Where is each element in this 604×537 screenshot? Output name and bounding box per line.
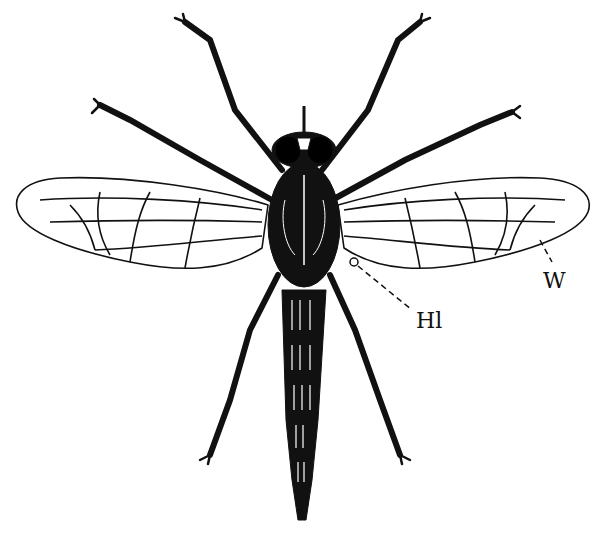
halter bbox=[350, 258, 358, 266]
wing-leader-line bbox=[540, 240, 552, 262]
left-wing bbox=[17, 178, 268, 269]
right-wing bbox=[338, 178, 589, 269]
abdomen bbox=[282, 290, 326, 520]
robber-fly-illustration: Hl W bbox=[0, 0, 604, 537]
label-wing: W bbox=[543, 268, 566, 293]
label-halter: Hl bbox=[416, 308, 442, 333]
halter-leader-line bbox=[358, 266, 412, 310]
